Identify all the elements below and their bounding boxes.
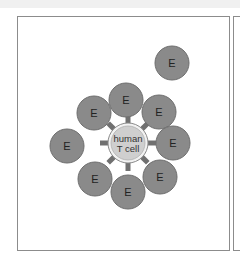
- effector-cell: E: [143, 160, 177, 194]
- effector-cell: E: [111, 175, 145, 209]
- effector-cell-label: E: [122, 94, 129, 106]
- receptor-stub: [108, 157, 114, 163]
- effector-cell: E: [78, 162, 112, 196]
- effector-cell-label: E: [63, 140, 70, 152]
- effector-cell: E: [142, 95, 176, 129]
- receptor-stub: [142, 157, 148, 163]
- effector-cell: E: [77, 96, 111, 130]
- effector-cell: E: [50, 129, 84, 163]
- effector-cell-label: E: [124, 186, 131, 198]
- receptor-stub: [108, 123, 114, 129]
- effector-cell-label: E: [169, 137, 176, 149]
- effector-cell-label: E: [155, 106, 162, 118]
- effector-cell-label: E: [90, 107, 97, 119]
- effector-cell: E: [109, 83, 143, 117]
- effector-cell: E: [156, 126, 190, 160]
- human-t-cell: human T cell: [108, 123, 148, 163]
- effector-cell-label: E: [168, 57, 175, 69]
- t-cell-label-line2: T cell: [117, 143, 140, 154]
- effector-cell-label: E: [156, 171, 163, 183]
- t-cell-effector-diagram: EEEEEEEEE human T cell: [0, 0, 240, 260]
- effector-cell-label: E: [91, 173, 98, 185]
- effector-cell: E: [155, 46, 189, 80]
